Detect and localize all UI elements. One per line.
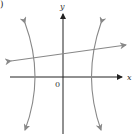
intersecting-line xyxy=(11,45,126,61)
origin-label: 0 xyxy=(55,80,60,89)
x-axis-label: x xyxy=(127,73,132,82)
y-axis-label: y xyxy=(59,2,65,11)
hyperbola-line-diagram: ) x y 0 xyxy=(0,0,139,137)
part-label: ) xyxy=(0,0,4,9)
